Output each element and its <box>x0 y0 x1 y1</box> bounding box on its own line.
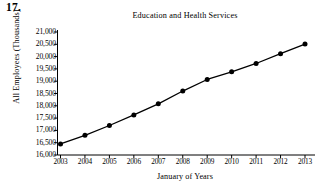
line-chart-plot <box>0 0 324 189</box>
series-line <box>61 44 306 144</box>
figure-container: 17. Education and Health Services All Em… <box>0 0 324 189</box>
data-point-marker <box>131 112 136 117</box>
data-point-marker <box>82 133 87 138</box>
data-point-marker <box>180 89 185 94</box>
data-point-marker <box>156 101 161 106</box>
data-point-marker <box>303 42 308 47</box>
data-point-marker <box>205 77 210 82</box>
data-point-marker <box>58 141 63 146</box>
data-point-marker <box>229 69 234 74</box>
data-series <box>58 42 308 147</box>
axes <box>54 30 315 159</box>
data-point-marker <box>254 61 259 66</box>
data-point-marker <box>107 123 112 128</box>
data-point-marker <box>278 51 283 56</box>
